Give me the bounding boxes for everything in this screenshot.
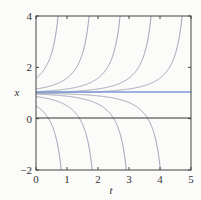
y-axis-label: x: [14, 86, 20, 98]
x-tick-label: 0: [33, 173, 39, 185]
x-tick-label: 1: [64, 173, 70, 185]
y-tick-label: 0: [27, 113, 33, 125]
x-tick-label: 2: [95, 173, 101, 185]
solution-curve: [36, 8, 90, 89]
y-tick-label: 2: [27, 61, 33, 73]
x-tick-label: 3: [126, 173, 132, 185]
x-axis-label: t: [109, 184, 113, 196]
solution-curve: [36, 94, 127, 178]
solution-curve: [36, 8, 152, 92]
y-tick-label: 4: [27, 10, 33, 22]
x-tick-label: 4: [157, 173, 163, 185]
x-axis-ticks: 012345: [33, 16, 194, 185]
solution-curve: [36, 106, 62, 178]
chart: 012345 −2024 t x: [0, 0, 201, 200]
solution-curve: [36, 93, 161, 177]
y-tick-label: −2: [20, 164, 32, 176]
solution-curve: [36, 97, 93, 178]
solution-curve: [36, 8, 59, 78]
solution-curve: [36, 8, 121, 91]
solution-curves: [36, 8, 183, 177]
x-tick-label: 5: [188, 173, 194, 185]
